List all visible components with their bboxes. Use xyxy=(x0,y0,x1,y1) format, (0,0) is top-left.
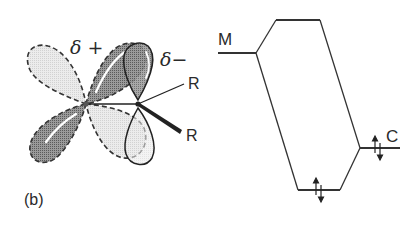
panel-label: (b) xyxy=(24,192,44,208)
lobe-lower-left xyxy=(30,104,86,162)
metal-level-label: M xyxy=(218,31,232,48)
metal-carbene-orbital-figure xyxy=(0,0,420,228)
substituent-lower-label: R xyxy=(186,128,198,144)
carbon-atom xyxy=(135,101,140,106)
substituent-upper-label: R xyxy=(188,76,200,92)
delta-minus-label: δ− xyxy=(160,50,187,69)
delta-plus-label: δ + xyxy=(70,38,103,57)
metal-atom xyxy=(83,101,88,106)
energy-level-diagram xyxy=(218,20,400,190)
carbon-level-label: C xyxy=(386,128,398,145)
